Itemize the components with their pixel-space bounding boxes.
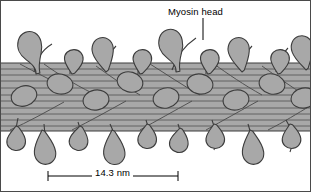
myosin-head-label: Myosin head bbox=[168, 6, 223, 17]
scale-bar-label: 14.3 nm bbox=[92, 167, 133, 178]
myosin-filament-figure: Myosin head 14.3 nm bbox=[0, 0, 311, 192]
filament-diagram bbox=[0, 0, 311, 192]
